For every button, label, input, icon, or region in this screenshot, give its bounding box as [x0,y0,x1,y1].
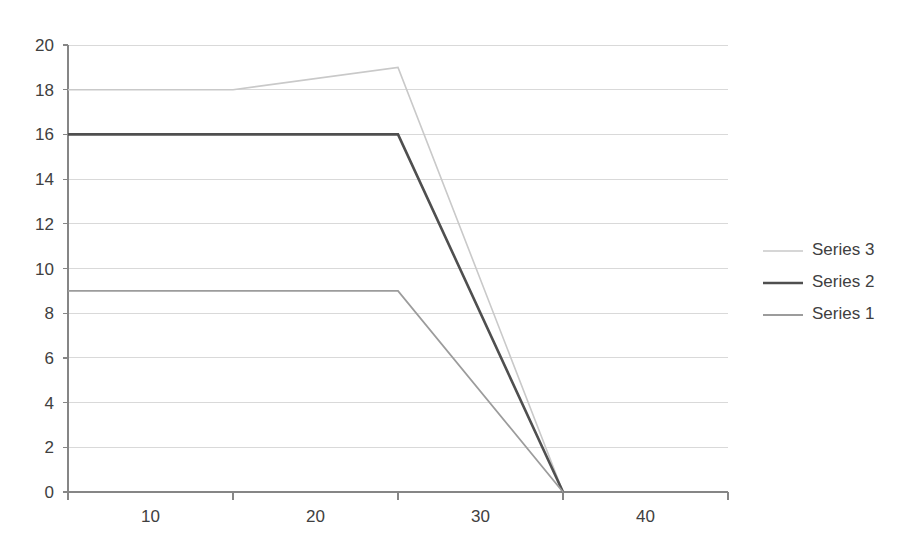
x-axis-tick-label: 30 [471,507,490,526]
y-axis-tick-label: 8 [45,304,54,323]
y-axis-tick-label: 18 [35,81,54,100]
y-axis-labels-group: 02468101214161820 [35,36,54,502]
y-axis-tick-label: 16 [35,125,54,144]
legend-item[interactable]: Series 2 [763,272,874,291]
series-line-series-1 [68,291,563,492]
series-line-series-3 [68,67,563,492]
y-axis-tick-label: 4 [45,394,54,413]
y-axis-tick-label: 2 [45,438,54,457]
legend-label: Series 1 [812,304,874,323]
legend-item[interactable]: Series 1 [763,304,874,323]
y-axis-tick-label: 10 [35,260,54,279]
tick-marks-group [63,45,728,500]
legend-label: Series 3 [812,240,874,259]
x-axis-tick-label: 10 [141,507,160,526]
legend-label: Series 2 [812,272,874,291]
legend-group[interactable]: Series 3Series 2Series 1 [763,240,874,323]
legend-item[interactable]: Series 3 [763,240,874,259]
x-axis-tick-label: 20 [306,507,325,526]
y-axis-tick-label: 0 [45,483,54,502]
line-chart-plot: 02468101214161820 10203040 Series 3Serie… [0,0,901,555]
gridlines-group [68,45,728,492]
series-lines-group [68,67,563,492]
x-axis-tick-label: 40 [636,507,655,526]
y-axis-tick-label: 14 [35,170,54,189]
x-axis-labels-group: 10203040 [141,507,655,526]
y-axis-tick-label: 12 [35,215,54,234]
y-axis-tick-label: 20 [35,36,54,55]
y-axis-tick-label: 6 [45,349,54,368]
chart-container: 02468101214161820 10203040 Series 3Serie… [0,0,901,555]
